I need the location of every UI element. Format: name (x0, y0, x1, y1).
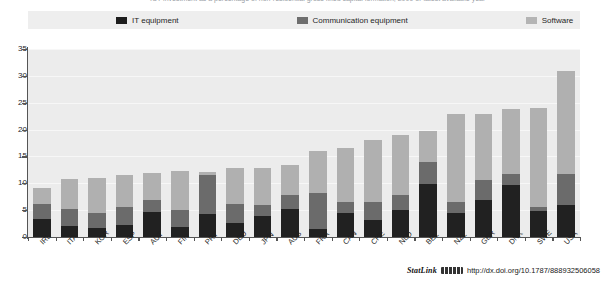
bar-segment-fin-communication-equipment (171, 210, 189, 227)
legend-swatch-icon (116, 17, 127, 24)
bar-esp[interactable] (116, 175, 134, 237)
bar-gbr[interactable] (475, 114, 493, 237)
chart-legend: IT equipment Communication equipment Sof… (28, 11, 580, 29)
bar-fin[interactable] (171, 171, 189, 237)
bar-segment-swe-software (530, 108, 548, 208)
bar-segment-bel-communication-equipment (419, 162, 437, 183)
bar-segment-fra-software (309, 151, 327, 193)
bar-bel[interactable] (419, 131, 437, 237)
bar-dnk[interactable] (502, 109, 520, 237)
statlink-url[interactable]: http://dx.doi.org/10.1787/888932506058 (467, 266, 600, 275)
bar-segment-ita-software (61, 179, 79, 209)
bar-ita[interactable] (61, 179, 79, 237)
bar-segment-che-communication-equipment (364, 202, 382, 220)
bar-segment-can-communication-equipment (337, 202, 355, 213)
bar-usa[interactable] (557, 71, 575, 238)
bar-aus[interactable] (281, 165, 299, 237)
bar-segment-can-software (337, 148, 355, 201)
bar-segment-aut-software (143, 173, 161, 200)
bar-fra[interactable] (309, 151, 327, 237)
statlink-footer[interactable]: StatLink http://dx.doi.org/10.1787/88893… (407, 266, 600, 275)
bar-segment-irl-communication-equipment (33, 204, 51, 220)
bar-segment-dnk-software (502, 109, 520, 174)
bar-prt[interactable] (199, 172, 217, 237)
bar-segment-aut-communication-equipment (143, 200, 161, 212)
bar-segment-nld-software (392, 135, 410, 195)
bar-segment-fin-software (171, 171, 189, 210)
bar-segment-jpn-communication-equipment (254, 205, 272, 216)
bar-segment-deu-communication-equipment (226, 204, 244, 223)
bar-series-container (28, 49, 580, 237)
bar-segment-usa-communication-equipment (557, 174, 575, 206)
legend-label-communication-equipment: Communication equipment (313, 16, 408, 25)
bar-che[interactable] (364, 140, 382, 237)
bar-nzl[interactable] (447, 114, 465, 237)
bar-segment-jpn-software (254, 168, 272, 206)
bar-segment-bel-software (419, 131, 437, 163)
plot-area (28, 49, 580, 237)
legend-item-communication-equipment[interactable]: Communication equipment (297, 16, 408, 25)
legend-swatch-icon (526, 17, 537, 24)
bar-segment-ita-communication-equipment (61, 209, 79, 227)
bar-nld[interactable] (392, 135, 410, 237)
statlink-word: StatLink (407, 266, 437, 275)
bar-aut[interactable] (143, 173, 161, 237)
barcode-icon (441, 267, 463, 274)
bar-can[interactable] (337, 148, 355, 237)
y-axis-line (27, 47, 28, 239)
bar-swe[interactable] (530, 108, 548, 237)
bar-segment-bel-it-equipment (419, 184, 437, 237)
legend-label-it-equipment: IT equipment (132, 16, 179, 25)
bar-segment-deu-software (226, 168, 244, 204)
bar-segment-dnk-communication-equipment (502, 174, 520, 185)
bar-segment-prt-communication-equipment (199, 175, 217, 214)
bar-segment-nld-communication-equipment (392, 195, 410, 210)
bar-segment-kor-software (88, 178, 106, 212)
bar-irl[interactable] (33, 188, 51, 237)
caption-strip: ICT investment as a percentage of non-re… (0, 0, 608, 9)
legend-item-it-equipment[interactable]: IT equipment (116, 16, 179, 25)
bar-segment-aus-software (281, 165, 299, 196)
bar-segment-aus-communication-equipment (281, 195, 299, 208)
bar-segment-gbr-communication-equipment (475, 180, 493, 201)
bar-segment-usa-software (557, 71, 575, 174)
bar-segment-gbr-software (475, 114, 493, 180)
legend-item-software[interactable]: Software (526, 16, 574, 25)
legend-label-software: Software (542, 16, 574, 25)
bar-deu[interactable] (226, 168, 244, 237)
bar-segment-fra-communication-equipment (309, 193, 327, 229)
bar-segment-che-software (364, 140, 382, 202)
legend-swatch-icon (297, 17, 308, 24)
bar-segment-esp-communication-equipment (116, 207, 134, 224)
bar-segment-irl-software (33, 188, 51, 204)
bar-segment-kor-communication-equipment (88, 213, 106, 228)
bar-segment-esp-software (116, 175, 134, 208)
bar-segment-nzl-communication-equipment (447, 202, 465, 213)
bar-segment-nzl-software (447, 114, 465, 202)
bar-jpn[interactable] (254, 168, 272, 237)
figure-caption: ICT investment as a percentage of non-re… (150, 0, 485, 2)
